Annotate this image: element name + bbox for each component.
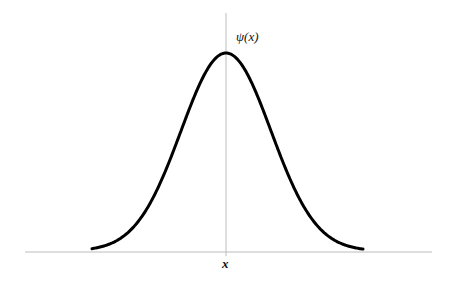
gaussian-curve: [92, 53, 363, 249]
x-axis-label: x: [222, 256, 229, 272]
y-axis-label: ψ(x): [236, 29, 259, 45]
wavefunction-plot: [0, 0, 449, 281]
